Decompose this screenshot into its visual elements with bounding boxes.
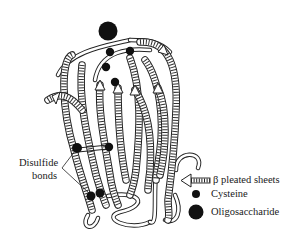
legend-symbols [181,174,210,220]
cysteine-legend-icon [192,190,200,198]
oligosaccharide-legend-icon [189,205,204,220]
oligosaccharide-dot [99,22,118,41]
beta-sheet-arrow-icon [181,174,210,187]
protein-diagram [0,0,296,240]
disulfide-bonds-label-line1: Disulfide [19,157,58,169]
disulfide-bonds-label-line2: bonds [32,170,57,182]
legend-label-oligosaccharide: Oligosaccharide [211,206,279,218]
legend-label-beta-sheets: β pleated sheets [213,174,280,186]
legend-label-cysteine: Cysteine [211,188,248,200]
